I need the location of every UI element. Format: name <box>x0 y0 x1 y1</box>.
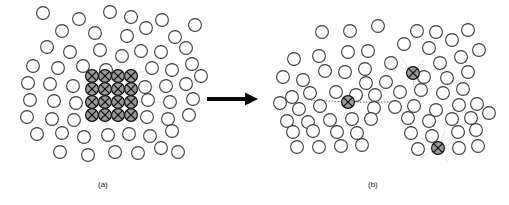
marked-node <box>125 83 138 96</box>
plain-node <box>462 24 475 37</box>
plain-node <box>360 77 373 90</box>
plain-node <box>346 113 359 126</box>
plain-node <box>164 96 177 109</box>
marked-node <box>125 70 138 83</box>
plain-node <box>44 78 57 91</box>
plain-node <box>172 146 185 159</box>
plain-node <box>166 125 179 138</box>
plain-node <box>287 126 300 139</box>
marked-node <box>125 109 138 122</box>
plain-node <box>372 20 385 33</box>
plain-node <box>22 77 35 90</box>
plain-node <box>465 112 478 125</box>
plain-node <box>473 44 486 57</box>
marked-node <box>86 83 99 96</box>
marked-node <box>99 109 112 122</box>
plain-node <box>56 127 69 140</box>
plain-node <box>446 34 459 47</box>
plain-node <box>31 128 44 141</box>
plain-node <box>41 41 54 54</box>
figure-container: (a) (b) <box>0 0 509 205</box>
plain-node <box>52 62 65 75</box>
plain-node <box>423 42 436 55</box>
plain-node <box>109 146 122 159</box>
marked-node <box>86 70 99 83</box>
plain-node <box>82 149 95 162</box>
plain-node <box>162 113 175 126</box>
plain-node <box>37 7 50 20</box>
plain-node <box>186 58 199 71</box>
plain-node <box>183 109 196 122</box>
marked-node <box>99 96 112 109</box>
plain-node <box>394 86 407 99</box>
plain-node <box>405 127 418 140</box>
plain-node <box>48 95 61 108</box>
plain-node <box>453 99 466 112</box>
arrow-head <box>245 93 258 106</box>
plain-node <box>462 66 475 79</box>
plain-node <box>156 14 169 27</box>
plain-node <box>56 25 69 38</box>
panel-b-caption: (b) <box>368 180 378 189</box>
plain-node <box>102 129 115 142</box>
plain-node <box>77 60 90 73</box>
plain-node <box>144 130 157 143</box>
marked-node <box>86 109 99 122</box>
plain-node <box>408 100 421 113</box>
plain-node <box>70 97 83 110</box>
plain-node <box>139 81 152 94</box>
plain-node <box>24 94 37 107</box>
plain-node <box>46 113 59 126</box>
plain-node <box>362 45 375 58</box>
plain-node <box>288 53 301 66</box>
plain-node <box>452 126 465 139</box>
plain-node <box>457 83 470 96</box>
plain-node <box>356 139 369 152</box>
plain-node <box>446 113 459 126</box>
plain-node <box>351 127 364 140</box>
marked-node <box>342 96 355 109</box>
plain-node <box>398 38 411 51</box>
plain-node <box>344 25 357 38</box>
marked-node <box>112 109 125 122</box>
plain-node <box>389 101 402 114</box>
plain-node <box>291 141 304 154</box>
plain-node <box>330 86 343 99</box>
marked-node <box>99 70 112 83</box>
plain-node <box>54 146 67 159</box>
plain-node <box>319 65 332 78</box>
plain-node <box>121 30 134 43</box>
plain-node <box>94 44 107 57</box>
plain-node <box>195 70 208 83</box>
plain-node <box>155 46 168 59</box>
plain-node <box>293 103 306 116</box>
plain-node <box>78 131 91 144</box>
plain-node <box>339 66 352 79</box>
plain-node <box>277 71 290 84</box>
marked-node <box>99 83 112 96</box>
plain-node <box>324 114 337 127</box>
plain-node <box>412 143 425 156</box>
plain-node <box>411 25 424 38</box>
plain-node <box>160 80 173 93</box>
plain-node <box>116 50 129 63</box>
plain-node <box>385 57 398 70</box>
transformation-arrow-group <box>207 93 258 106</box>
plain-node <box>453 142 466 155</box>
plain-node <box>286 91 299 104</box>
plain-node <box>27 60 40 73</box>
marked-node <box>407 67 420 80</box>
plain-node <box>297 74 310 87</box>
plain-node <box>426 130 439 143</box>
plain-node <box>369 89 382 102</box>
plain-node <box>21 111 34 124</box>
plain-node <box>441 72 454 85</box>
marked-node <box>112 70 125 83</box>
plain-node <box>423 115 436 128</box>
plain-node <box>380 76 393 89</box>
plain-node <box>342 46 355 59</box>
plain-node <box>335 140 348 153</box>
figure-svg <box>0 0 509 205</box>
plain-node <box>365 113 378 126</box>
panel-a-caption: (a) <box>98 180 108 189</box>
